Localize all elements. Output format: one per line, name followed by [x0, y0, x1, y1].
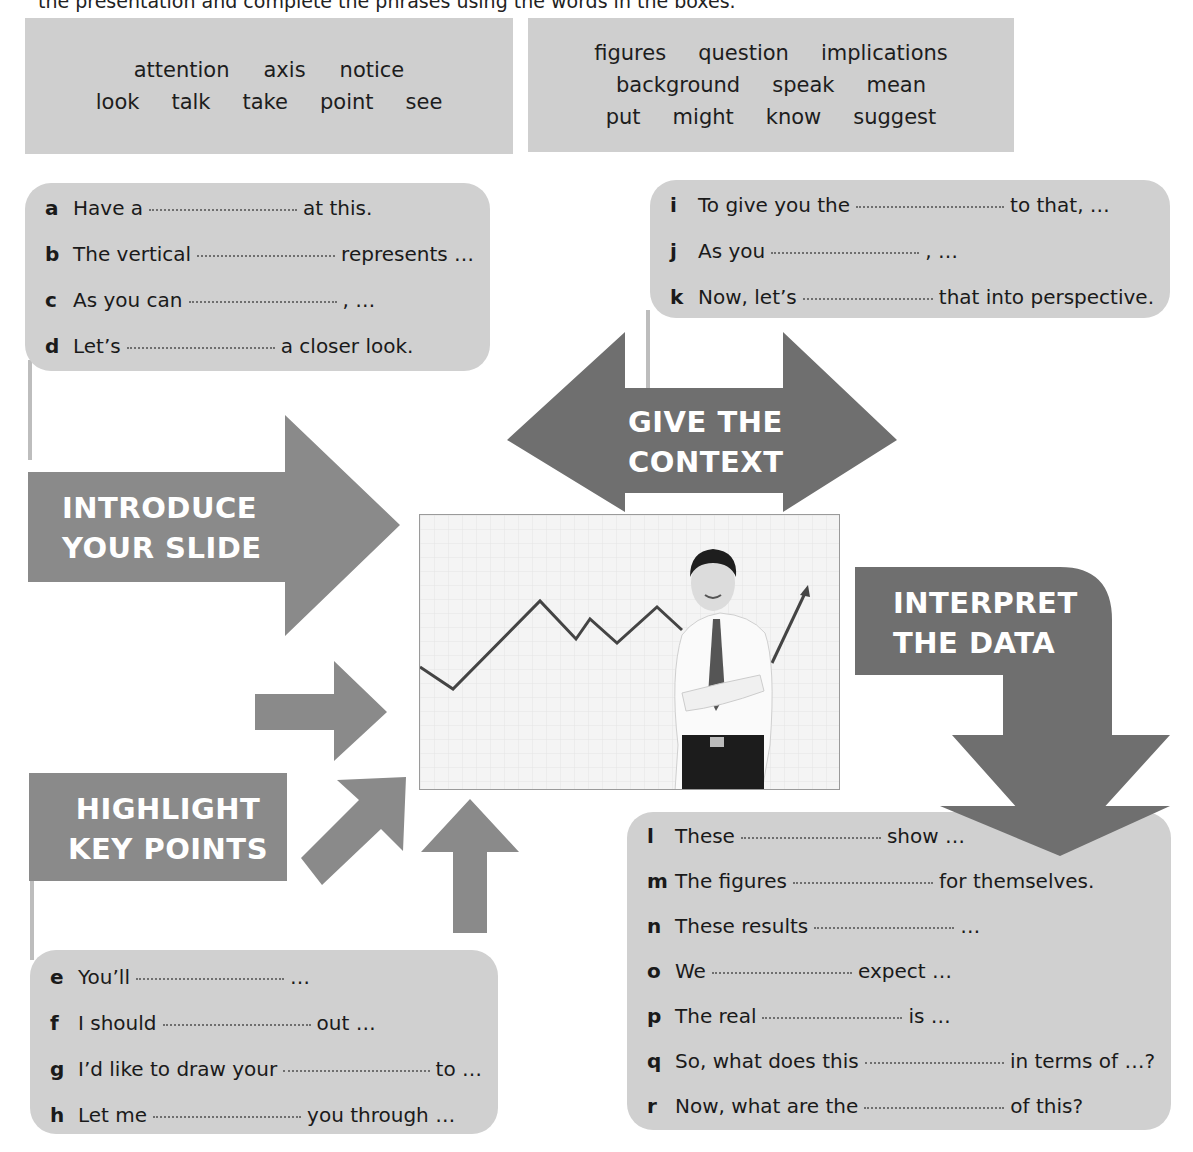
phrase-before: These — [675, 814, 735, 859]
label-line: CONTEXT — [628, 442, 783, 482]
item-letter: n — [647, 904, 675, 949]
blank-field[interactable] — [762, 1016, 902, 1019]
phrase-before: The real — [675, 994, 756, 1039]
phrase-item-r: r Now, what are the of this? — [647, 1084, 1155, 1129]
item-letter: m — [647, 859, 675, 904]
stage-label-introduce: INTRODUCE YOUR SLIDE — [62, 488, 262, 568]
item-letter: p — [647, 994, 675, 1039]
phrase-before: You’ll — [78, 954, 130, 1000]
phrase-after: is … — [908, 994, 950, 1039]
blank-field[interactable] — [163, 1023, 311, 1026]
phrase-after: … — [290, 954, 310, 1000]
blank-field[interactable] — [136, 977, 284, 980]
phrase-after: out … — [317, 1000, 376, 1046]
phrase-item-p: p The real is … — [647, 994, 1155, 1039]
label-line: HIGHLIGHT — [68, 789, 268, 829]
phrase-after: … — [960, 904, 980, 949]
phrase-before: Let me — [78, 1092, 147, 1138]
small-right-arrow — [255, 661, 387, 761]
item-letter: h — [50, 1092, 78, 1138]
phrase-after: in terms of …? — [1010, 1039, 1155, 1084]
phrase-item-o: o We expect … — [647, 949, 1155, 994]
blank-field[interactable] — [814, 926, 954, 929]
item-letter: e — [50, 954, 78, 1000]
phrase-item-f: f I should out … — [50, 1000, 482, 1046]
label-line: YOUR SLIDE — [62, 528, 262, 568]
blank-field[interactable] — [712, 971, 852, 974]
stage-label-highlight: HIGHLIGHT KEY POINTS — [68, 789, 268, 869]
stage-label-interpret: INTERPRET THE DATA — [893, 583, 1078, 663]
blank-field[interactable] — [793, 881, 933, 884]
label-line: INTRODUCE — [62, 488, 262, 528]
label-line: KEY POINTS — [68, 829, 268, 869]
blank-field[interactable] — [741, 836, 881, 839]
phrase-item-h: h Let me you through … — [50, 1092, 482, 1138]
phrase-item-e: e You’ll … — [50, 954, 482, 1000]
blank-field[interactable] — [865, 1061, 1004, 1064]
presenter-photo — [419, 514, 840, 790]
stage-label-context: GIVE THE CONTEXT — [628, 402, 783, 482]
label-line: INTERPRET — [893, 583, 1078, 623]
photo-illustration — [420, 515, 840, 790]
item-letter: l — [647, 814, 675, 859]
label-line: THE DATA — [893, 623, 1078, 663]
blank-field[interactable] — [864, 1106, 1004, 1109]
phrase-before: I should — [78, 1000, 157, 1046]
phrase-before: I’d like to draw your — [78, 1046, 277, 1092]
item-letter: g — [50, 1046, 78, 1092]
interpret-arrow-tip — [940, 806, 1170, 866]
item-letter: f — [50, 1000, 78, 1046]
blank-field[interactable] — [283, 1069, 429, 1072]
phrase-box-highlight: e You’ll … f I should out … g I’d like t… — [30, 950, 498, 1134]
item-letter: r — [647, 1084, 675, 1129]
phrase-before: We — [675, 949, 706, 994]
phrase-before: So, what does this — [675, 1039, 859, 1084]
phrase-item-n: n These results … — [647, 904, 1155, 949]
phrase-after: to … — [436, 1046, 482, 1092]
phrase-after: expect … — [858, 949, 952, 994]
phrase-before: These results — [675, 904, 808, 949]
label-line: GIVE THE — [628, 402, 783, 442]
phrase-item-g: g I’d like to draw your to … — [50, 1046, 482, 1092]
blank-field[interactable] — [153, 1115, 301, 1118]
phrase-before: Now, what are the — [675, 1084, 858, 1129]
phrase-item-q: q So, what does this in terms of …? — [647, 1039, 1155, 1084]
phrase-after: you through … — [307, 1092, 455, 1138]
small-diagonal-arrow — [301, 777, 406, 885]
item-letter: o — [647, 949, 675, 994]
phrase-after: of this? — [1010, 1084, 1083, 1129]
phrase-before: The figures — [675, 859, 787, 904]
arrow-tip-shape — [940, 806, 1170, 856]
small-up-arrow — [421, 799, 519, 933]
item-letter: q — [647, 1039, 675, 1084]
